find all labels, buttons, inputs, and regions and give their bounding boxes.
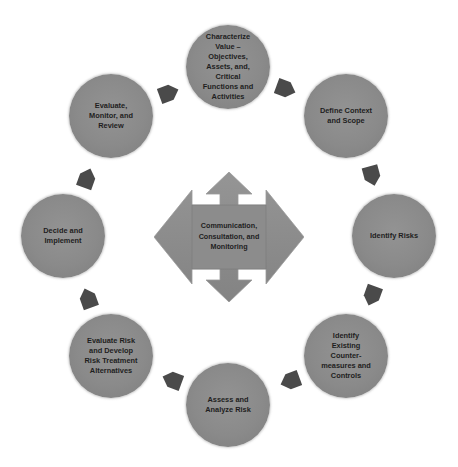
arrow-left-up-icon bbox=[158, 366, 186, 394]
risk-management-cycle-diagram: Communication, Consultation, and Monitor… bbox=[0, 0, 458, 467]
arrow-right-down-icon bbox=[272, 75, 300, 103]
arrow-right-icon bbox=[155, 79, 183, 107]
node-label: Assess and Analyze Risk bbox=[205, 395, 251, 415]
node-label: Evaluate Risk and Develop Risk Treatment… bbox=[85, 336, 138, 376]
node-assess-and-analyze-risk: Assess and Analyze Risk bbox=[186, 363, 270, 447]
center-four-way-arrow: Communication, Consultation, and Monitor… bbox=[154, 172, 304, 302]
arrow-up-icon bbox=[74, 284, 102, 312]
node-label: Characterize Value – Objectives, Assets,… bbox=[203, 32, 254, 102]
center-label: Communication, Consultation, and Monitor… bbox=[194, 215, 264, 259]
node-evaluate-risk-and-develop-treatment: Evaluate Risk and Develop Risk Treatment… bbox=[69, 314, 153, 398]
node-identify-risks: Identify Risks bbox=[352, 194, 436, 278]
arrow-up-right-icon bbox=[73, 164, 101, 192]
node-identify-existing-countermeasures: Identify Existing Counter- measures and … bbox=[304, 314, 388, 398]
node-evaluate-monitor-and-review: Evaluate, Monitor, and Review bbox=[69, 74, 153, 158]
node-label: Define Context and Scope bbox=[320, 106, 372, 126]
arrow-down-left-icon bbox=[358, 282, 386, 310]
node-label: Evaluate, Monitor, and Review bbox=[89, 101, 133, 131]
arrow-left-icon bbox=[276, 367, 304, 395]
node-label: Decide and Implement bbox=[43, 226, 82, 246]
node-define-context-and-scope: Define Context and Scope bbox=[304, 74, 388, 158]
node-label: Identify Risks bbox=[370, 231, 418, 241]
node-decide-and-implement: Decide and Implement bbox=[21, 194, 105, 278]
arrow-down-icon bbox=[359, 163, 386, 190]
node-characterize-value: Characterize Value – Objectives, Assets,… bbox=[186, 25, 270, 109]
node-label: Identify Existing Counter- measures and … bbox=[321, 331, 371, 381]
